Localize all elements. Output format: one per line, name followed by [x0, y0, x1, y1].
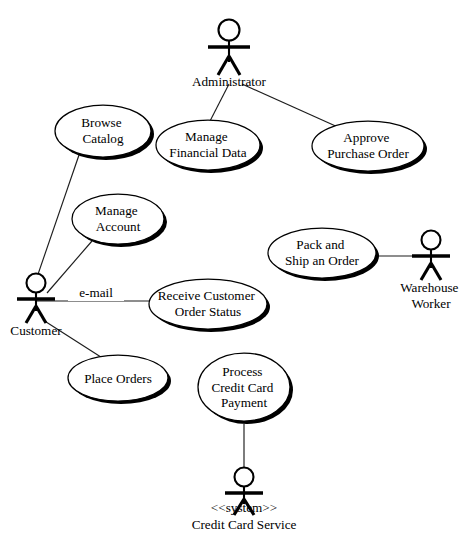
use-case-manage-financial-data[interactable]: Manage Financial Data: [156, 120, 263, 173]
actor-left-leg: [421, 263, 431, 280]
actor-administrator[interactable]: Administrator: [192, 20, 267, 90]
actor-warehouse-worker[interactable]: Warehouse Worker: [400, 231, 462, 311]
use-case-process-credit-card-payment[interactable]: Process Credit Card Payment: [198, 353, 293, 424]
use-case-label: Place Orders: [84, 371, 152, 386]
actor-head: [235, 468, 254, 487]
association-label-email: e-mail: [68, 285, 124, 301]
actor-customer[interactable]: Customer: [10, 274, 62, 339]
edge-label-text: e-mail: [79, 285, 113, 300]
actor-credit-card-service[interactable]: <<system>> Credit Card Service: [192, 468, 297, 533]
actor-head: [422, 231, 441, 250]
actor-right-leg: [36, 306, 46, 323]
actor-left-leg: [218, 56, 229, 75]
actor-left-leg: [26, 306, 36, 323]
actor-stereotype-label: <<system>>: [211, 500, 277, 515]
association-admin-manage-financial-data: [209, 84, 229, 123]
actor-head: [27, 274, 46, 293]
actor-right-leg: [431, 263, 441, 280]
actor-right-leg: [229, 56, 240, 75]
actor-head: [219, 20, 240, 41]
use-case-diagram-canvas: Browse Catalog Manage Financial Data App…: [0, 0, 471, 544]
use-case-manage-account[interactable]: Manage Account: [72, 194, 167, 247]
use-case-pack-and-ship-an-order[interactable]: Pack and Ship an Order: [268, 228, 379, 281]
use-case-place-orders[interactable]: Place Orders: [68, 355, 171, 404]
actor-label: Credit Card Service: [192, 517, 297, 532]
association-admin-approve-purchase-order: [242, 84, 340, 128]
actor-label: Warehouse Worker: [400, 280, 462, 311]
use-case-receive-customer-order-status[interactable]: Receive Customer Order Status: [149, 279, 270, 332]
actor-label: Customer: [10, 323, 62, 338]
use-case-browse-catalog[interactable]: Browse Catalog: [55, 105, 154, 160]
use-case-label: Browse Catalog: [81, 115, 125, 146]
use-case-label: Manage Account: [95, 203, 141, 234]
actor-label: Administrator: [192, 74, 267, 89]
use-case-approve-purchase-order[interactable]: Approve Purchase Order: [312, 121, 427, 174]
